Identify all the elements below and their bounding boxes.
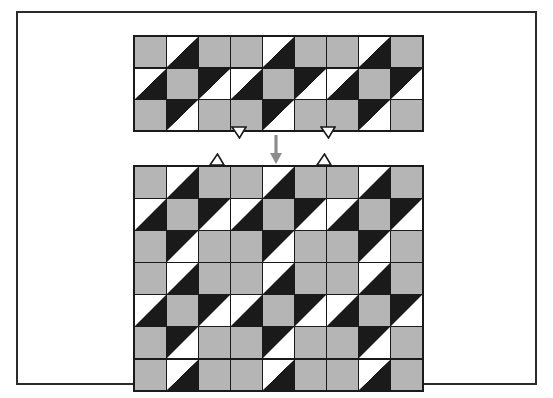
tile-cell [231,37,262,67]
tile-cell [359,231,390,262]
tile-cell [135,360,166,391]
tile-cell [167,295,198,326]
tile-cell [295,263,326,294]
tile-cell [231,69,262,99]
top-grid-right-tab-icon [320,126,336,139]
tile-cell [199,231,230,262]
tile-cell [167,167,198,198]
tile-cell [391,167,422,198]
tile-cell [167,100,198,130]
tile-cell [231,295,262,326]
tile-cell [359,100,390,130]
tile-cell [167,199,198,230]
tile-cell [391,231,422,262]
tile-cell [231,199,262,230]
tile-cell [327,37,358,67]
tile-cell [391,199,422,230]
tile-cell [135,327,166,358]
tile-cell [263,37,294,67]
tile-cell [231,167,262,198]
tile-cell [263,167,294,198]
tile-cell [199,167,230,198]
tile-cell [199,69,230,99]
tile-cell [359,327,390,358]
source-tile-strip-grid [133,35,424,132]
tile-cell [327,263,358,294]
tile-cell [167,231,198,262]
tile-cell [199,263,230,294]
tile-cell [199,199,230,230]
tile-cell [391,69,422,99]
tile-cell [295,231,326,262]
tile-cell [327,327,358,358]
top-grid-left-tab-icon [231,126,247,139]
tile-cell [391,100,422,130]
tile-cell [359,360,390,391]
tile-cell [327,360,358,391]
tile-cell [359,295,390,326]
tile-cell [327,69,358,99]
tile-cell [295,167,326,198]
tile-cell [391,327,422,358]
tile-cell [167,37,198,67]
tile-cell [295,69,326,99]
figure-canvas [0,0,553,398]
tile-cell [135,295,166,326]
down-arrow-icon [268,135,284,165]
tile-cell [135,231,166,262]
tile-cell [167,263,198,294]
tile-cell [231,231,262,262]
tile-cell [359,263,390,294]
tile-cell [135,263,166,294]
tile-cell [359,37,390,67]
tile-cell [263,360,294,391]
tile-cell [199,327,230,358]
tile-cell [263,295,294,326]
tile-cell [167,360,198,391]
tile-cell [327,295,358,326]
tile-cell [135,69,166,99]
tile-cell [231,263,262,294]
tile-cell [231,360,262,391]
tile-cell [135,199,166,230]
tile-cell [327,199,358,230]
tile-cell [295,360,326,391]
tile-cell [167,327,198,358]
tile-cell [359,69,390,99]
tile-cell [391,295,422,326]
tile-cell [135,100,166,130]
tile-cell [263,263,294,294]
tile-cell [263,100,294,130]
extended-tile-field-grid [133,165,424,392]
tile-cell [295,327,326,358]
tile-cell [199,295,230,326]
tile-cell [263,69,294,99]
tile-cell [167,69,198,99]
tile-cell [231,327,262,358]
tile-cell [263,199,294,230]
tile-cell [199,100,230,130]
tile-cell [359,199,390,230]
tile-cell [327,231,358,262]
tile-cell [263,327,294,358]
tile-cell [391,37,422,67]
tile-cell [295,199,326,230]
tile-cell [391,263,422,294]
tile-cell [295,37,326,67]
tile-cell [199,37,230,67]
tile-cell [199,360,230,391]
tile-cell [391,360,422,391]
tile-cell [359,167,390,198]
tile-cell [295,295,326,326]
tile-cell [135,167,166,198]
tile-cell [263,231,294,262]
tile-cell [327,167,358,198]
tile-cell [135,37,166,67]
